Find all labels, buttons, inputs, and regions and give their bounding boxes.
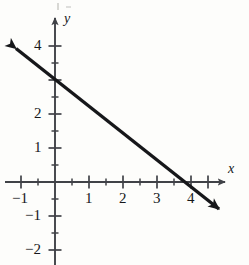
x-tick-label-4: 4 (187, 191, 195, 206)
y-axis-label: y (64, 12, 70, 26)
graph-figure: −1 1 2 3 4 4 2 1 −1 −2 y x (0, 0, 249, 265)
y-tick-label-4: 4 (34, 38, 42, 53)
y-tick-label--1: −1 (25, 208, 41, 223)
y-tick-label-2: 2 (34, 106, 42, 121)
y-tick-label--2: −2 (25, 242, 41, 257)
y-tick-label-1: 1 (34, 140, 42, 155)
x-tick-label-1: 1 (85, 191, 93, 206)
x-tick-label-2: 2 (119, 191, 127, 206)
scan-speck (57, 3, 59, 10)
scan-speck (66, 6, 71, 8)
plotted-line (16, 49, 219, 210)
x-tick-label-3: 3 (153, 191, 161, 206)
y-axis (49, 18, 62, 265)
x-tick-label--1: −1 (12, 191, 28, 206)
x-axis-label: x (228, 162, 234, 176)
